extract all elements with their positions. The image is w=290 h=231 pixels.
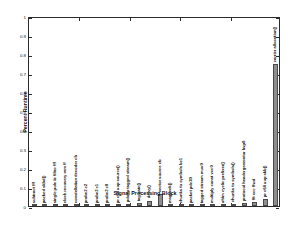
y-tick-mark: [29, 75, 32, 76]
y-tick-label: 0.4: [20, 130, 26, 134]
y-tick-mark: [276, 18, 279, 19]
category-label: clock recovery mm ff: [63, 162, 67, 203]
category-label: fft vcc ffwd: [252, 179, 256, 200]
category-label: single pole iir filter fff: [53, 162, 57, 203]
y-tick-mark: [29, 208, 32, 209]
x-tick-mark: [180, 18, 181, 21]
y-tick-mark: [29, 170, 32, 171]
y-tick-label: 0.9: [20, 35, 26, 39]
plot-area: Percent Runtime 00.10.20.30.40.50.60.70.…: [28, 17, 280, 207]
category-label: tagged stream mux0: [200, 163, 204, 203]
y-tick-label: 0: [24, 206, 26, 210]
x-tick-mark: [79, 18, 80, 21]
bar: [63, 204, 68, 206]
bar: [147, 201, 152, 206]
bar: [242, 203, 247, 206]
bar: [273, 64, 278, 206]
bar: [126, 204, 131, 206]
x-tick-mark: [79, 203, 80, 206]
y-tick-label: 0.2: [20, 168, 26, 172]
bar: [168, 204, 173, 206]
bar: [221, 204, 226, 206]
bar: [189, 204, 194, 206]
bar: [137, 203, 142, 206]
bar: [105, 204, 110, 206]
bar: [74, 204, 79, 206]
y-tick-mark: [29, 37, 32, 38]
bar: [42, 204, 47, 206]
category-label: vector source cb: [158, 159, 162, 192]
bar: [32, 204, 37, 206]
y-tick-mark: [29, 151, 32, 152]
y-tick-mark: [276, 208, 279, 209]
category-label: multiply const vcc0: [210, 165, 214, 203]
y-tick-mark: [29, 113, 32, 114]
category-label: pr c64 uop source(): [116, 165, 120, 203]
category-label: packed skbd(): [42, 175, 46, 203]
x-axis-label: Signal Processing Block: [0, 191, 290, 196]
category-label: carrier allocation(): [273, 27, 277, 63]
x-tick-mark: [130, 18, 131, 21]
bar: [95, 204, 100, 206]
bar: [53, 204, 58, 206]
category-label: ofdm cyclic prefixer(): [221, 162, 225, 203]
y-tick-mark: [29, 18, 32, 19]
bar: [200, 204, 205, 206]
category-label: packet pdc30: [189, 177, 193, 203]
y-tick-label: 0.5: [20, 111, 26, 115]
bar: [252, 202, 257, 206]
y-tick-mark: [29, 56, 32, 57]
y-tick-label: 0.7: [20, 73, 26, 77]
bar: [231, 204, 236, 206]
y-tick-label: 0.6: [20, 92, 26, 96]
figure: Percent Runtime 00.10.20.30.40.50.60.70.…: [0, 0, 290, 231]
y-tick-label: 0.8: [20, 54, 26, 58]
bar: [116, 204, 121, 206]
bar: [84, 204, 89, 206]
y-tick-label: 0.3: [20, 149, 26, 153]
bar: [263, 199, 268, 206]
y-tick-mark: [29, 94, 32, 95]
x-tick-mark: [231, 18, 232, 21]
bar: [179, 204, 184, 206]
y-tick-label: 1: [24, 16, 26, 20]
bar: [210, 204, 215, 206]
y-tick-mark: [29, 132, 32, 133]
